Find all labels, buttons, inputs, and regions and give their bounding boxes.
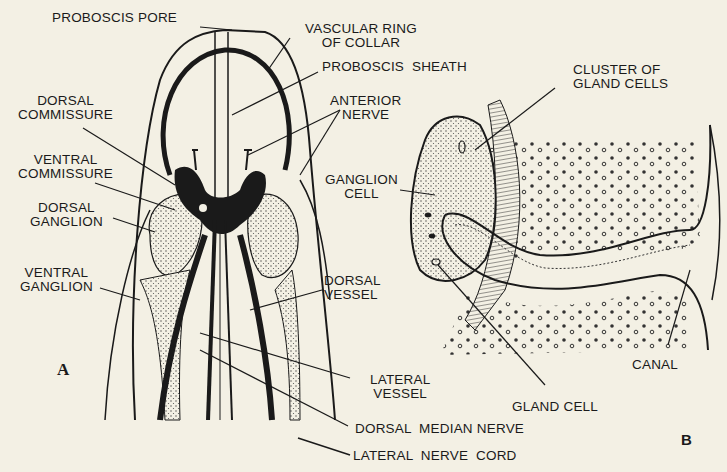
panel-b-drawing bbox=[400, 88, 720, 385]
label-dorsal-ganglion: DORSAL GANGLION bbox=[30, 201, 103, 229]
label-ganglion-cell: GANGLION CELL bbox=[325, 173, 398, 201]
label-dorsal-median-nerve: DORSAL MEDIAN NERVE bbox=[355, 422, 524, 436]
label-lateral-nerve-cord: LATERAL NERVE CORD bbox=[353, 449, 517, 463]
label-canal: CANAL bbox=[632, 358, 678, 372]
label-ventral-ganglion: VENTRAL GANGLION bbox=[20, 266, 93, 294]
label-lateral-vessel: LATERAL VESSEL bbox=[370, 373, 430, 401]
label-anterior-nerve: ANTERIOR NERVE bbox=[330, 94, 401, 122]
anatomical-figure: PROBOSCIS PORE VASCULAR RING OF COLLAR P… bbox=[0, 0, 727, 472]
label-proboscis-sheath: PROBOSCIS SHEATH bbox=[322, 60, 467, 74]
label-gland-cell: GLAND CELL bbox=[512, 400, 598, 414]
panel-a-letter: A bbox=[57, 360, 69, 380]
label-cluster-of-gland-cells: CLUSTER OF GLAND CELLS bbox=[573, 63, 668, 91]
label-proboscis-pore: PROBOSCIS PORE bbox=[52, 11, 177, 25]
panel-a-drawing bbox=[83, 27, 350, 455]
label-vascular-ring-of-collar: VASCULAR RING OF COLLAR bbox=[305, 22, 417, 50]
panel-b-letter: B bbox=[681, 431, 692, 448]
label-ventral-commissure: VENTRAL COMMISSURE bbox=[18, 153, 113, 181]
label-dorsal-commissure: DORSAL COMMISSURE bbox=[18, 94, 113, 122]
label-dorsal-vessel: DORSAL VESSEL bbox=[324, 274, 381, 302]
